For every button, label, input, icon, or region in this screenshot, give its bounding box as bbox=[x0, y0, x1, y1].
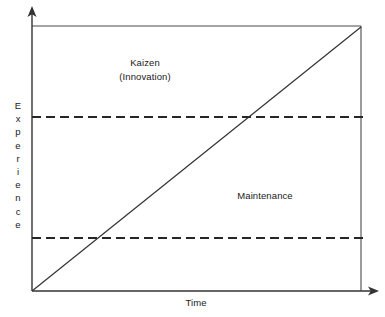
y-axis-label-letter: e bbox=[11, 178, 25, 191]
y-axis-label-letter: E bbox=[11, 99, 25, 112]
y-axis-label-letter: e bbox=[11, 139, 25, 152]
y-axis-label-letter: n bbox=[11, 191, 25, 204]
y-axis-label-letter: i bbox=[11, 165, 25, 178]
y-axis-label: E x p e r i e n c e bbox=[11, 99, 25, 231]
y-axis-label-letter: p bbox=[11, 125, 25, 138]
diagram-canvas bbox=[0, 0, 385, 317]
y-axis-label-letter: r bbox=[11, 152, 25, 165]
x-axis-label: Time bbox=[146, 297, 246, 308]
maintenance-region-label: Maintenance bbox=[210, 190, 320, 201]
kaizen-region-label-line2: (Innovation) bbox=[85, 70, 205, 84]
kaizen-maintenance-diagram: E x p e r i e n c e Kaizen (Innovation) … bbox=[0, 0, 385, 317]
y-axis-label-letter: x bbox=[11, 112, 25, 125]
y-axis-label-letter: c bbox=[11, 205, 25, 218]
kaizen-region-label: Kaizen (Innovation) bbox=[85, 56, 205, 84]
kaizen-region-label-line1: Kaizen bbox=[85, 56, 205, 70]
y-axis-label-letter: e bbox=[11, 218, 25, 231]
